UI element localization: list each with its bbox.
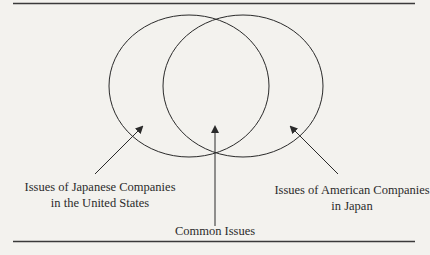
label-left-line2: in the United States	[24, 195, 175, 211]
label-american-companies-in-japan: Issues of American Companies in Japan	[274, 182, 429, 214]
label-japanese-companies-in-us: Issues of Japanese Companies in the Unit…	[24, 179, 175, 211]
label-common-issues: Common Issues	[175, 223, 255, 239]
left-arrow-icon	[95, 127, 142, 174]
label-right-line2: in Japan	[274, 198, 429, 214]
label-right-line1: Issues of American Companies	[274, 182, 429, 198]
label-left-line1: Issues of Japanese Companies	[24, 179, 175, 195]
label-center: Common Issues	[175, 223, 255, 239]
right-arrow-icon	[291, 127, 338, 174]
